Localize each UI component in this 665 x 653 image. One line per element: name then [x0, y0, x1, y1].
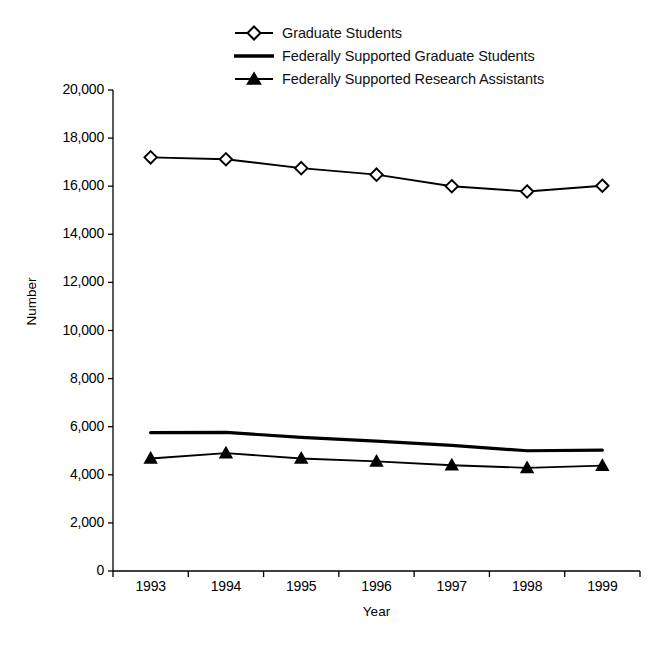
data-point-marker	[295, 162, 307, 174]
x-axis-title: Year	[113, 604, 640, 619]
data-point-marker	[144, 151, 156, 163]
data-point-marker	[220, 447, 232, 458]
y-axis-tick-label: 0	[18, 562, 104, 578]
y-axis-tick-label: 8,000	[18, 370, 104, 386]
x-axis-tick-label: 1993	[113, 578, 188, 594]
y-axis-tick-label: 2,000	[18, 514, 104, 530]
series-1	[144, 151, 608, 198]
y-axis-tick-label: 6,000	[18, 418, 104, 434]
chart-figure: Graduate Students Federally Supported Gr…	[0, 0, 665, 653]
x-axis-tick-label: 1995	[264, 578, 339, 594]
x-axis-tick-label: 1996	[339, 578, 414, 594]
data-point-marker	[370, 168, 382, 180]
series-line	[151, 432, 603, 450]
data-point-marker	[220, 153, 232, 165]
x-axis-tick-label: 1999	[565, 578, 640, 594]
x-axis-tick-label: 1994	[188, 578, 263, 594]
y-axis-title: Number	[24, 257, 39, 347]
series-2	[151, 432, 603, 450]
y-axis-tick-label: 16,000	[18, 177, 104, 193]
y-axis-tick-label: 20,000	[18, 81, 104, 97]
x-axis-tick-label: 1997	[414, 578, 489, 594]
y-axis-tick-label: 14,000	[18, 225, 104, 241]
y-axis-tick-label: 18,000	[18, 129, 104, 145]
y-axis-tick-label: 4,000	[18, 466, 104, 482]
data-point-marker	[446, 180, 458, 192]
data-point-marker	[521, 185, 533, 197]
data-point-marker	[596, 180, 608, 192]
x-axis-tick-label: 1998	[490, 578, 565, 594]
